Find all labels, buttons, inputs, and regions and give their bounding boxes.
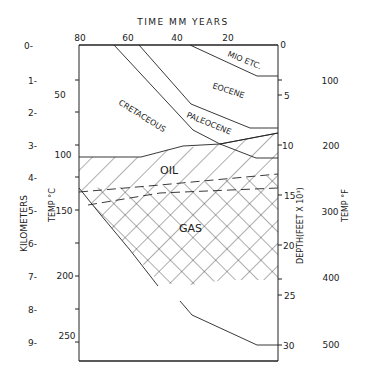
svg-text:500: 500 <box>322 340 339 350</box>
svg-text:9-: 9- <box>28 338 37 348</box>
burial-history-chart: TIME MM YEARS 80 60 40 20 0 0- 1- 2- 3- … <box>0 0 369 378</box>
svg-text:300: 300 <box>321 207 338 217</box>
svg-text:60: 60 <box>122 33 134 43</box>
svg-text:40: 40 <box>171 33 183 43</box>
region-label-gas: GAS <box>179 222 202 235</box>
temp-c-axis: 50 100 150 200 250 <box>54 90 76 341</box>
region-label-cretaceous: CRETACEOUS <box>117 98 167 134</box>
region-label-paleocene: PALEOCENE <box>185 111 232 137</box>
svg-text:15: 15 <box>284 191 295 201</box>
kilometers-label: KILOMETERS <box>19 195 29 252</box>
svg-text:6-: 6- <box>28 239 37 249</box>
svg-text:250: 250 <box>58 331 75 341</box>
svg-text:0: 0 <box>280 40 286 50</box>
svg-text:4-: 4- <box>28 173 37 183</box>
svg-text:10: 10 <box>282 141 294 151</box>
depth-feet-axis: 5 10 15 20 25 30 <box>282 91 295 351</box>
svg-text:80: 80 <box>74 33 86 43</box>
svg-text:2-: 2- <box>28 108 37 118</box>
svg-text:100: 100 <box>321 76 338 86</box>
region-label-mio: MIO ETC. <box>226 50 262 72</box>
svg-text:400: 400 <box>322 273 339 283</box>
depth-feet-label: DEPTH(FEET X 10³) <box>296 187 305 264</box>
temp-f-axis: 100 200 300 400 500 <box>321 76 339 350</box>
svg-text:8-: 8- <box>28 305 37 315</box>
svg-text:1-: 1- <box>28 76 37 86</box>
time-axis: 80 60 40 20 0 <box>74 33 286 50</box>
svg-text:5: 5 <box>284 91 290 101</box>
temp-f-label: TEMP °F <box>341 189 350 223</box>
base-eocene-line <box>139 45 278 128</box>
svg-text:150: 150 <box>55 206 72 216</box>
svg-text:200: 200 <box>56 271 73 281</box>
region-label-oil: OIL <box>160 164 179 177</box>
svg-text:7-: 7- <box>28 272 37 282</box>
temp-c-label: TEMP °C <box>48 188 57 223</box>
chart-title: TIME MM YEARS <box>136 17 229 27</box>
svg-text:25: 25 <box>284 291 295 301</box>
svg-text:20: 20 <box>283 241 295 251</box>
region-label-eocene: EOCENE <box>211 81 245 100</box>
svg-text:20: 20 <box>222 33 234 43</box>
svg-text:3-: 3- <box>28 141 37 151</box>
gas-base-line-lower <box>180 301 278 345</box>
svg-text:50: 50 <box>54 90 66 100</box>
svg-text:0-: 0- <box>24 41 33 51</box>
svg-text:100: 100 <box>54 150 71 160</box>
km-axis: 0- 1- 2- 3- 4- 5- 6- 7- 8- 9- <box>24 41 37 348</box>
svg-text:5-: 5- <box>28 206 37 216</box>
svg-text:30: 30 <box>283 341 295 351</box>
svg-text:200: 200 <box>322 141 339 151</box>
